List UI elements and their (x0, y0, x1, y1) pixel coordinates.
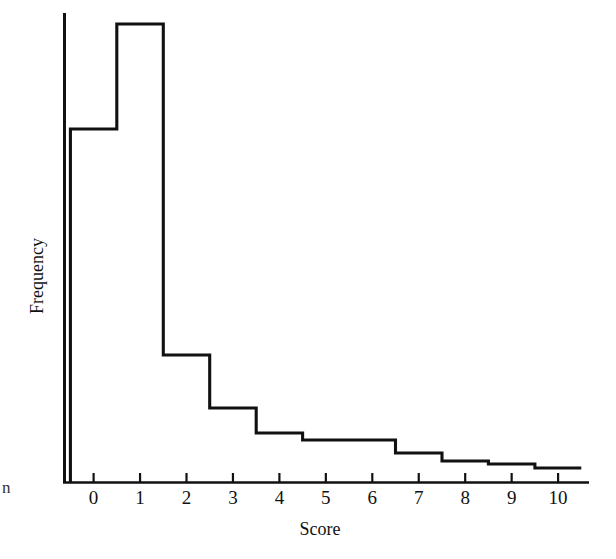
x-axis-title: Score (300, 519, 341, 539)
x-axis-tick-label: 3 (228, 487, 238, 508)
x-axis-tick-label: 10 (549, 487, 568, 508)
x-axis-tick-label: 0 (89, 487, 99, 508)
x-axis-tick-label: 9 (507, 487, 517, 508)
y-axis-title: Frequency (27, 238, 47, 314)
x-axis-tick-label: 6 (368, 487, 378, 508)
x-axis-tick-label: 7 (414, 487, 424, 508)
chart-canvas: 012345678910 Score Frequency (0, 0, 616, 559)
x-axis-tick-label: 5 (321, 487, 331, 508)
margin-stray-glyph: n (2, 478, 11, 498)
chart-background (0, 0, 616, 559)
x-axis-tick-label: 1 (135, 487, 145, 508)
histogram-figure: n 012345678910 Score Frequency (0, 0, 616, 559)
x-axis-tick-label: 2 (182, 487, 192, 508)
x-axis-tick-label: 8 (460, 487, 470, 508)
x-axis-tick-label: 4 (275, 487, 285, 508)
